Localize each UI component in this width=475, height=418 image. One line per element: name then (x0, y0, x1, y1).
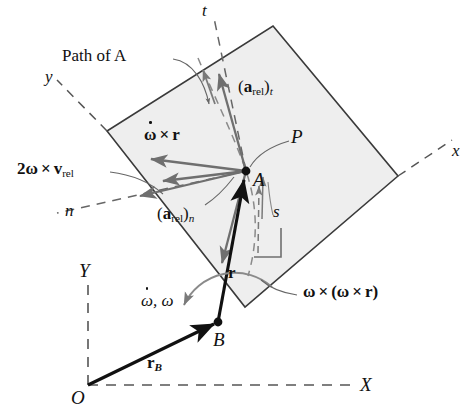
label-axis-y-body: y (45, 68, 53, 85)
label-path-of-a: Path of A (62, 47, 126, 64)
label-axis-n: n (65, 202, 74, 219)
rotating-plate (107, 26, 398, 307)
label-point-a: A (253, 170, 265, 189)
label-a-rel-n: (arel)n (157, 205, 194, 224)
label-vector-r: r (228, 264, 236, 281)
label-omega-dot-omega: ω, ω (141, 292, 174, 309)
point-a-dot (242, 167, 251, 176)
label-axis-X-global: X (360, 375, 372, 394)
label-point-p: P (291, 127, 303, 146)
axis-y-body-line (57, 80, 107, 131)
point-b-dot (214, 318, 223, 327)
label-point-o: O (71, 388, 85, 407)
label-arc-length-s: s (273, 203, 280, 220)
label-two-omega-cross-v-rel: 2ω×vrel (17, 160, 74, 179)
kinematics-figure: Path of A (arel)t (arel)n ω×r 2ω×vrel ω×… (0, 0, 475, 418)
label-a-rel-t: (arel)t (238, 78, 273, 97)
label-axis-Y-global: Y (79, 261, 90, 280)
axis-x-body-line (398, 140, 452, 176)
label-point-b: B (213, 330, 225, 349)
label-omega-dot-cross-r: ω×r (144, 126, 180, 143)
label-omega-cross-omega-cross-r: ω×(ω×r) (303, 283, 378, 300)
label-vector-r-b: rB (147, 354, 162, 373)
omega-dot-accent-icon-2: ω (141, 292, 153, 309)
omega-dot-accent-icon: ω (144, 126, 156, 143)
label-axis-t: t (202, 2, 207, 19)
label-axis-x-body: x (452, 142, 460, 159)
